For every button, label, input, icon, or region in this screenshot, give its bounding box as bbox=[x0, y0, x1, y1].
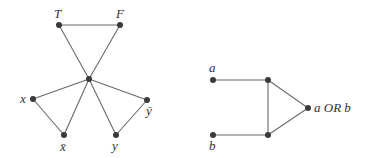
label-y: y bbox=[110, 138, 118, 153]
node-F bbox=[117, 22, 123, 28]
label-x: x bbox=[19, 91, 26, 106]
edge-T-center bbox=[59, 25, 89, 79]
edge-F-center bbox=[89, 25, 120, 79]
edge-x-xbar bbox=[33, 99, 64, 135]
node-output bbox=[305, 105, 311, 111]
label-xbar: x̄ bbox=[59, 139, 66, 154]
node-T bbox=[56, 22, 62, 28]
edge-y-ybar bbox=[116, 100, 147, 135]
edge-center-x bbox=[33, 79, 89, 99]
edge-center-xbar bbox=[64, 79, 89, 135]
label-T: T bbox=[54, 6, 62, 21]
edge-top-out bbox=[268, 80, 308, 108]
node-top-junction bbox=[265, 77, 271, 83]
diagram-canvas: T F x ȳ x̄ y a b a OR b bbox=[0, 0, 366, 158]
label-a: a bbox=[209, 60, 216, 75]
edge-bottom-out bbox=[268, 108, 308, 135]
variable-gadget: T F x ȳ x̄ y bbox=[19, 6, 152, 154]
label-ybar: ȳ bbox=[144, 103, 152, 118]
label-b: b bbox=[209, 138, 216, 153]
or-gadget: a b a OR b bbox=[209, 60, 351, 153]
node-x bbox=[30, 96, 36, 102]
node-a bbox=[210, 77, 216, 83]
node-bottom-junction bbox=[265, 132, 271, 138]
node-center bbox=[86, 76, 92, 82]
node-xbar bbox=[61, 132, 67, 138]
label-F: F bbox=[115, 6, 125, 21]
label-output: a OR b bbox=[314, 100, 351, 115]
